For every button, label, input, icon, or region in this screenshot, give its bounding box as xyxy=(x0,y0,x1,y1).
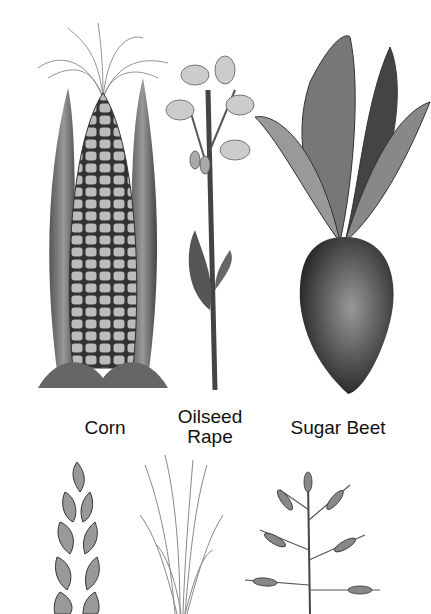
oilseed-rape-illustration xyxy=(160,50,260,395)
oilseed-rape-label-line1: Oilseed xyxy=(170,407,250,427)
sugar-beet-illustration xyxy=(250,22,431,397)
sugar-beet-label: Sugar Beet xyxy=(278,418,398,438)
grass-illustration xyxy=(135,455,225,614)
corn-label: Corn xyxy=(70,418,140,438)
wheat-ear-illustration xyxy=(45,462,110,614)
oilseed-rape-label-line2: Rape xyxy=(170,427,250,447)
oilseed-rape-label: Oilseed Rape xyxy=(170,407,250,447)
corn-illustration xyxy=(28,18,178,403)
oat-illustration xyxy=(240,470,390,614)
